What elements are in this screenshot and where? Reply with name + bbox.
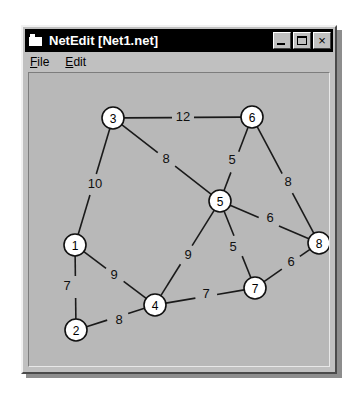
minimize-button[interactable] bbox=[273, 32, 291, 49]
node-label-5: 5 bbox=[217, 195, 224, 209]
edge-layer bbox=[75, 117, 314, 327]
node-2[interactable]: 2 bbox=[65, 319, 87, 341]
edge-weight-1-2[interactable]: 7 bbox=[63, 278, 70, 293]
edge-weight-7-8[interactable]: 6 bbox=[287, 254, 294, 269]
edge-weight-3-6[interactable]: 12 bbox=[176, 109, 190, 124]
edge-weight-3-1[interactable]: 10 bbox=[88, 176, 102, 191]
maximize-icon bbox=[297, 36, 307, 45]
edge-5-4-part1[interactable] bbox=[192, 210, 214, 245]
edge-weight-6-5[interactable]: 5 bbox=[228, 152, 235, 167]
node-1[interactable]: 1 bbox=[64, 234, 86, 256]
window-title: NetEdit [Net1.net] bbox=[49, 33, 273, 49]
node-label-3: 3 bbox=[110, 112, 117, 126]
node-8[interactable]: 8 bbox=[308, 232, 330, 254]
close-button[interactable]: × bbox=[313, 32, 331, 49]
edge-5-7-part1[interactable] bbox=[224, 211, 234, 236]
edge-5-7-part2[interactable] bbox=[242, 256, 251, 278]
node-5[interactable]: 5 bbox=[209, 190, 231, 212]
node-6[interactable]: 6 bbox=[241, 106, 263, 128]
edge-weight-6-8[interactable]: 8 bbox=[284, 174, 291, 189]
close-icon: × bbox=[314, 33, 330, 48]
edge-weight-3-5[interactable]: 8 bbox=[162, 151, 169, 166]
edge-3-5-part2[interactable] bbox=[175, 166, 211, 194]
menu-bar: File Edit bbox=[23, 52, 335, 72]
network-graph[interactable]: 12810586596797812345678 bbox=[29, 73, 330, 367]
edge-3-1-part1[interactable] bbox=[96, 129, 110, 174]
edge-6-5-part1[interactable] bbox=[239, 127, 248, 152]
edge-6-8-part2[interactable] bbox=[292, 193, 313, 233]
title-bar[interactable]: NetEdit [Net1.net] × bbox=[25, 29, 333, 52]
edge-2-4-part1[interactable] bbox=[86, 320, 107, 327]
menu-file-rest: ile bbox=[37, 55, 49, 69]
edge-3-5-part1[interactable] bbox=[122, 125, 158, 153]
netedit-window: NetEdit [Net1.net] × File Edit 128105865… bbox=[21, 25, 337, 374]
node-label-2: 2 bbox=[73, 324, 80, 338]
menu-item-file[interactable]: File bbox=[30, 55, 49, 69]
edge-6-5-part2[interactable] bbox=[224, 172, 231, 190]
edge-5-8-part1[interactable] bbox=[230, 205, 259, 217]
node-3[interactable]: 3 bbox=[102, 107, 124, 129]
node-layer: 12345678 bbox=[64, 106, 330, 341]
edge-2-4-part2[interactable] bbox=[128, 308, 144, 313]
edge-7-4-part2[interactable] bbox=[166, 298, 196, 303]
node-7[interactable]: 7 bbox=[244, 277, 266, 299]
edge-7-8-part1[interactable] bbox=[264, 269, 282, 282]
node-label-4: 4 bbox=[152, 299, 159, 313]
node-label-7: 7 bbox=[252, 282, 259, 296]
edge-5-4-part2[interactable] bbox=[161, 264, 181, 295]
edge-1-4-part2[interactable] bbox=[124, 281, 147, 298]
edge-weight-5-7[interactable]: 5 bbox=[229, 239, 236, 254]
minimize-icon bbox=[277, 43, 285, 45]
menu-item-edit[interactable]: Edit bbox=[65, 55, 86, 69]
edge-6-8-part1[interactable] bbox=[257, 127, 282, 174]
edge-3-1-part2[interactable] bbox=[78, 195, 90, 234]
edge-weight-1-4[interactable]: 9 bbox=[110, 267, 117, 282]
edge-weight-2-4[interactable]: 8 bbox=[115, 312, 122, 327]
edge-weight-7-4[interactable]: 7 bbox=[202, 286, 209, 301]
node-4[interactable]: 4 bbox=[144, 294, 166, 316]
maximize-button[interactable] bbox=[293, 32, 311, 49]
node-label-6: 6 bbox=[249, 111, 256, 125]
edge-weight-5-4[interactable]: 9 bbox=[184, 247, 191, 262]
edge-1-4-part1[interactable] bbox=[84, 252, 106, 269]
title-bar-buttons: × bbox=[273, 32, 331, 49]
node-label-1: 1 bbox=[72, 239, 79, 253]
menu-edit-rest: dit bbox=[73, 55, 86, 69]
graph-canvas[interactable]: 12810586596797812345678 bbox=[28, 72, 330, 367]
node-label-8: 8 bbox=[316, 237, 323, 251]
edge-weight-5-8[interactable]: 6 bbox=[266, 210, 273, 225]
app-icon bbox=[29, 34, 44, 48]
edge-7-8-part2[interactable] bbox=[300, 249, 310, 256]
edge-5-8-part2[interactable] bbox=[279, 226, 309, 239]
edge-7-4-part1[interactable] bbox=[217, 290, 244, 295]
